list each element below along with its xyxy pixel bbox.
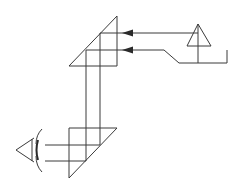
eye-icon bbox=[16, 129, 42, 172]
arrowhead-icon bbox=[122, 30, 133, 37]
lower-prism bbox=[69, 128, 117, 178]
lower-ray bbox=[45, 47, 227, 162]
upper-prism bbox=[69, 16, 117, 66]
upper-ray bbox=[45, 30, 198, 146]
object-arrow-icon bbox=[187, 24, 211, 63]
periscope-diagram bbox=[0, 0, 238, 189]
arrowhead-icon bbox=[122, 47, 133, 54]
